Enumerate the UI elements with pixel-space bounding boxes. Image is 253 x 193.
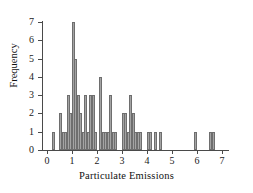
y-tick — [38, 132, 42, 133]
x-tick — [122, 150, 123, 154]
y-tick — [38, 22, 42, 23]
y-tick — [38, 59, 42, 60]
histogram-bar — [94, 132, 97, 150]
x-tick-label: 7 — [215, 156, 229, 166]
x-tick — [197, 150, 198, 154]
y-tick-label: 7 — [22, 17, 34, 27]
y-tick-label: 1 — [22, 127, 34, 137]
x-axis-title: Particulate Emissions — [0, 170, 253, 181]
histogram-bar — [159, 132, 162, 150]
y-tick — [38, 77, 42, 78]
x-tick-label: 6 — [190, 156, 204, 166]
x-tick-label: 3 — [115, 156, 129, 166]
y-axis-title: Frequency — [8, 26, 19, 106]
histogram-bar — [139, 132, 142, 150]
y-tick-label: 6 — [22, 35, 34, 45]
histogram-bar — [212, 132, 215, 150]
x-tick-label: 5 — [165, 156, 179, 166]
y-tick-label: 4 — [22, 72, 34, 82]
y-axis-line — [42, 21, 43, 151]
x-tick — [222, 150, 223, 154]
x-tick-label: 1 — [65, 156, 79, 166]
y-tick — [38, 95, 42, 96]
y-tick-label: 5 — [22, 54, 34, 64]
y-tick — [38, 40, 42, 41]
y-tick-label: 0 — [22, 145, 34, 155]
x-tick — [147, 150, 148, 154]
y-tick-label: 3 — [22, 90, 34, 100]
x-tick — [97, 150, 98, 154]
histogram-bar — [52, 132, 55, 150]
histogram-bar — [114, 132, 117, 150]
plot-area: 01234567 01234567 — [0, 0, 253, 193]
histogram-bar — [194, 132, 197, 150]
x-tick-label: 0 — [40, 156, 54, 166]
y-tick — [38, 150, 42, 151]
x-tick — [47, 150, 48, 154]
x-axis-line — [42, 150, 229, 151]
x-tick — [172, 150, 173, 154]
histogram-chart: 01234567 01234567 Particulate Emissions … — [0, 0, 253, 193]
x-tick-label: 2 — [90, 156, 104, 166]
histogram-bar — [154, 132, 157, 150]
y-tick-label: 2 — [22, 108, 34, 118]
histogram-bar — [149, 132, 152, 150]
x-tick — [72, 150, 73, 154]
y-tick — [38, 113, 42, 114]
x-tick-label: 4 — [140, 156, 154, 166]
